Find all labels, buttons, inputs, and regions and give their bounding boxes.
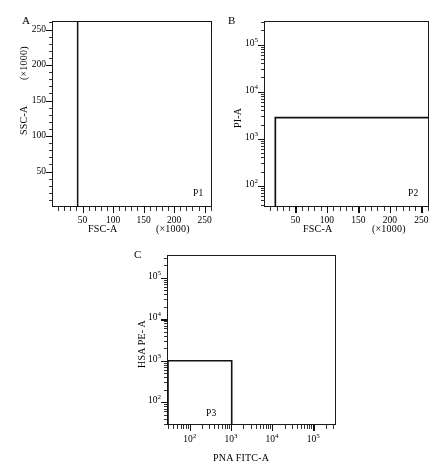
axis-tick <box>261 63 265 64</box>
axis-tick <box>49 51 53 52</box>
axis-tick <box>164 363 168 364</box>
axis-tick <box>199 207 200 211</box>
axis-tick <box>49 22 53 23</box>
axis-tick <box>308 207 309 211</box>
axis-tick <box>49 72 53 73</box>
axis-tick <box>261 55 265 56</box>
axis-tick <box>231 425 232 431</box>
axis-tick <box>295 207 296 213</box>
axis-tick <box>164 406 168 407</box>
axis-tick <box>164 365 168 366</box>
axis-tick <box>261 200 265 201</box>
axis-tick <box>261 99 265 100</box>
panel-a-ytick-150: 150 <box>24 95 46 105</box>
axis-tick <box>125 207 126 211</box>
panel-b-xaxis-unit: (×1000) <box>372 223 406 234</box>
axis-tick <box>327 207 328 213</box>
axis-tick <box>49 44 53 45</box>
axis-tick <box>352 207 353 211</box>
axis-tick <box>164 415 168 416</box>
panel-b-gate-label-p2: P2 <box>408 188 418 198</box>
axis-tick <box>218 425 219 429</box>
axis-tick <box>49 200 53 201</box>
axis-tick <box>326 425 327 429</box>
panel-b-ytick-10e5: 105 <box>236 38 258 48</box>
axis-tick <box>261 143 265 144</box>
axis-tick <box>164 336 168 337</box>
axis-tick <box>164 341 168 342</box>
axis-tick <box>49 108 53 109</box>
panel-a-xaxis-unit: (×1000) <box>156 223 190 234</box>
axis-tick <box>313 425 314 431</box>
axis-tick <box>186 207 187 211</box>
axis-tick <box>174 207 175 213</box>
axis-tick <box>164 326 168 327</box>
axis-tick <box>164 424 168 425</box>
axis-tick <box>261 125 265 126</box>
axis-tick <box>156 207 157 211</box>
panel-a-yaxis-unit: (×1000) <box>18 46 29 80</box>
axis-tick <box>164 390 168 391</box>
axis-tick <box>49 122 53 123</box>
axis-tick <box>181 425 182 429</box>
axis-tick <box>261 149 265 150</box>
axis-tick <box>261 22 265 23</box>
axis-tick <box>164 348 168 349</box>
panel-b-letter: B <box>228 14 236 26</box>
panel-a-yaxis-label: SSC-A <box>18 106 29 135</box>
axis-tick <box>261 193 265 194</box>
axis-tick <box>49 186 53 187</box>
axis-tick <box>261 52 265 53</box>
axis-tick <box>46 30 52 31</box>
panel-b-xtick-250: 250 <box>407 215 435 225</box>
axis-tick <box>164 294 168 295</box>
axis-tick <box>270 207 271 211</box>
axis-tick <box>164 411 168 412</box>
panel-a-xaxis-label: FSC-A <box>88 223 117 234</box>
axis-tick <box>161 278 167 279</box>
axis-tick <box>205 207 206 213</box>
panel-c-xtick-10e2: 102 <box>176 434 204 444</box>
panel-b-xtick-150: 150 <box>344 215 372 225</box>
axis-tick <box>340 207 341 211</box>
panel-a-ytick-50: 50 <box>24 166 46 176</box>
axis-tick <box>164 282 168 283</box>
panel-c-ytick-10e2: 102 <box>139 395 161 405</box>
axis-tick <box>150 207 151 211</box>
axis-tick <box>263 425 264 429</box>
axis-tick <box>177 425 178 429</box>
axis-tick <box>309 425 310 429</box>
panel-c-gate-overlay <box>167 255 336 425</box>
axis-tick <box>58 207 59 211</box>
panel-a-gate-label-p1: P1 <box>193 188 203 198</box>
axis-tick <box>311 425 312 429</box>
axis-tick <box>365 207 366 211</box>
axis-tick <box>202 425 203 429</box>
panel-c-xtick-10e5: 105 <box>299 434 327 444</box>
axis-tick <box>83 207 84 213</box>
axis-tick <box>292 425 293 429</box>
panel-b-ytick-10e3: 103 <box>236 132 258 142</box>
axis-tick <box>261 190 265 191</box>
axis-tick <box>209 425 210 429</box>
axis-tick <box>261 69 265 70</box>
axis-tick <box>46 172 52 173</box>
axis-tick <box>101 207 102 211</box>
axis-tick <box>261 77 265 78</box>
axis-tick <box>261 163 265 164</box>
axis-tick <box>251 425 252 429</box>
panel-c-letter: C <box>134 248 142 260</box>
axis-tick <box>258 92 264 93</box>
axis-tick <box>261 110 265 111</box>
axis-tick <box>164 280 168 281</box>
panel-b-gate-overlay <box>264 21 429 207</box>
axis-tick <box>261 172 265 173</box>
axis-tick <box>333 207 334 211</box>
axis-tick <box>261 153 265 154</box>
axis-tick <box>261 94 265 95</box>
axis-tick <box>261 30 265 31</box>
axis-tick <box>307 425 308 429</box>
axis-tick <box>256 425 257 429</box>
axis-tick <box>49 79 53 80</box>
axis-tick <box>346 207 347 211</box>
